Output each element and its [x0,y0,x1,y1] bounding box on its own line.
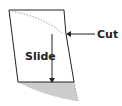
cut-curve-dashed [12,11,62,33]
sheet-outline [9,10,74,82]
cut-label: Cut [97,29,118,40]
slide-label: Slide [25,51,56,62]
slide-cut-diagram [0,0,122,106]
shaded-slid-region [18,82,78,101]
